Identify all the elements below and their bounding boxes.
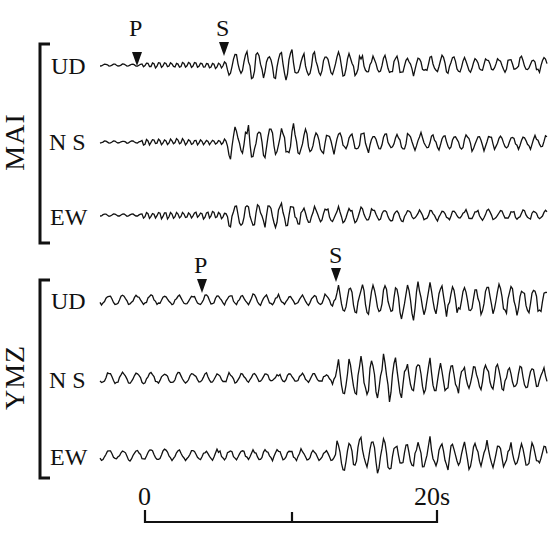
mai-s-arrow-icon — [219, 42, 229, 56]
ymz-p-label: P — [194, 253, 207, 277]
time-scale-bar — [145, 510, 437, 522]
station-label-ymz: YMZ — [1, 346, 29, 410]
mai-ud-label: UD — [51, 54, 86, 78]
mai-s-label: S — [216, 16, 229, 40]
ymz-ud-trace — [100, 282, 547, 321]
station-label-mai: MAI — [1, 112, 29, 172]
scale-start-label: 0 — [138, 484, 151, 510]
ymz s-label: S — [329, 243, 342, 267]
ymz-s-arrow-icon — [331, 268, 341, 282]
ymz-p-arrow-icon — [197, 279, 207, 293]
scale-end-label: 20s — [414, 484, 450, 510]
mai-ew-trace — [100, 203, 547, 227]
mai-ns-label: N S — [49, 130, 86, 154]
mai-p-label: P — [129, 16, 142, 40]
ymz-ns-trace — [100, 354, 547, 402]
ymz-ew-trace — [100, 436, 547, 473]
ymz-ud-label: UD — [51, 289, 86, 313]
ymz-ns-label: N S — [49, 368, 86, 392]
mai-ns-trace — [100, 123, 547, 159]
mai-ew-label: EW — [50, 205, 87, 229]
mai-ud-trace — [100, 50, 547, 81]
ymz-ew-label: EW — [50, 445, 87, 469]
